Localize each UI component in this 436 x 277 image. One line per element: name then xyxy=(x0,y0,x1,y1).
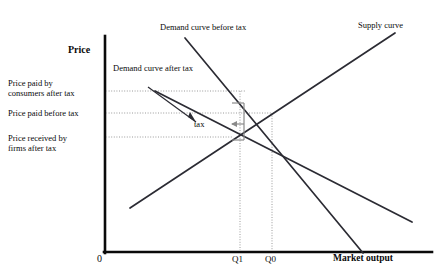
diagram-canvas: Price Price paid by consumers after tax … xyxy=(0,0,436,277)
x-axis-title: Market output xyxy=(333,253,393,264)
price-label-firms-after-tax-line2: firms after tax xyxy=(8,143,56,154)
curve-label-demand-after-tax: Demand curve after tax xyxy=(113,63,193,74)
demand-curve-before-tax xyxy=(185,38,363,253)
supply-curve xyxy=(130,33,395,208)
origin-label: 0 xyxy=(97,253,102,264)
x-tick-label-q0: Q0 xyxy=(265,254,276,265)
curve-label-demand-before-tax: Demand curve before tax xyxy=(160,22,246,33)
demand-curve-after-tax xyxy=(155,91,412,222)
annotation-tax: tax xyxy=(194,119,204,130)
x-tick-label-q1: Q1 xyxy=(232,254,243,265)
curve-label-supply: Supply curve xyxy=(358,20,403,31)
price-label-consumers-after-tax-line2: consumers after tax xyxy=(8,88,75,99)
y-axis-title: Price xyxy=(68,44,90,55)
price-label-before-tax: Price paid before tax xyxy=(8,108,79,119)
tax-bracket-pointer-arrowhead xyxy=(231,121,237,127)
